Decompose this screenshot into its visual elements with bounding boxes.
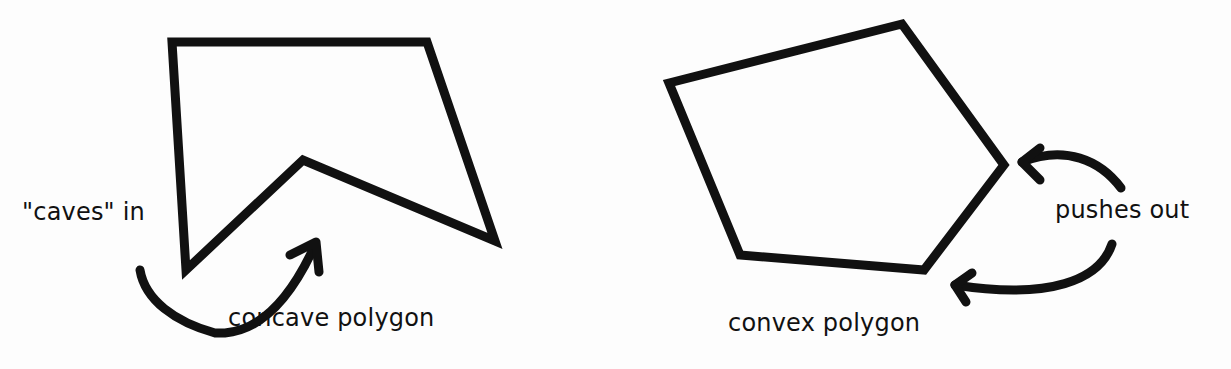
concave-polygon-label: concave polygon xyxy=(228,304,435,332)
pushes-out-lower-arrow-icon xyxy=(955,244,1112,302)
caves-in-label: "caves" in xyxy=(22,198,145,226)
concave-polygon-shape xyxy=(172,42,495,270)
pushes-out-upper-arrow-icon xyxy=(1022,148,1121,188)
diagram-svg xyxy=(0,0,1231,369)
convex-polygon-label: convex polygon xyxy=(728,309,920,337)
convex-polygon-shape xyxy=(669,24,1004,270)
diagram-canvas: "caves" in concave polygon convex polygo… xyxy=(0,0,1231,369)
pushes-out-label: pushes out xyxy=(1055,196,1189,224)
